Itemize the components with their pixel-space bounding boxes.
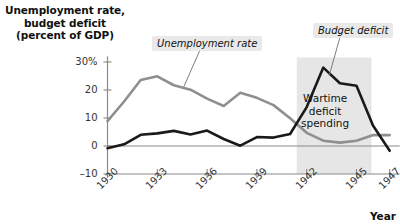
wartime-note-line-3: spending xyxy=(301,117,349,130)
budget-deficit-callout: Budget deficit xyxy=(313,23,393,38)
wartime-note-line-2: deficit xyxy=(301,105,349,118)
wartime-deficit-note: Wartime deficit spending xyxy=(301,92,349,130)
unemployment-callout-leader-line xyxy=(184,50,200,87)
y-tick-label: 10 xyxy=(60,113,98,123)
y-tick-label: –10 xyxy=(60,169,98,179)
y-tick-label: 30% xyxy=(60,57,98,67)
unemployment-rate-callout: Unemployment rate xyxy=(152,36,262,51)
y-tick-label: 0 xyxy=(60,141,98,151)
chart-figure: Unemployment rate, budget deficit (perce… xyxy=(0,0,400,224)
y-tick-label: 20 xyxy=(60,85,98,95)
wartime-note-line-1: Wartime xyxy=(301,92,349,105)
x-axis-title: Year xyxy=(370,210,396,222)
